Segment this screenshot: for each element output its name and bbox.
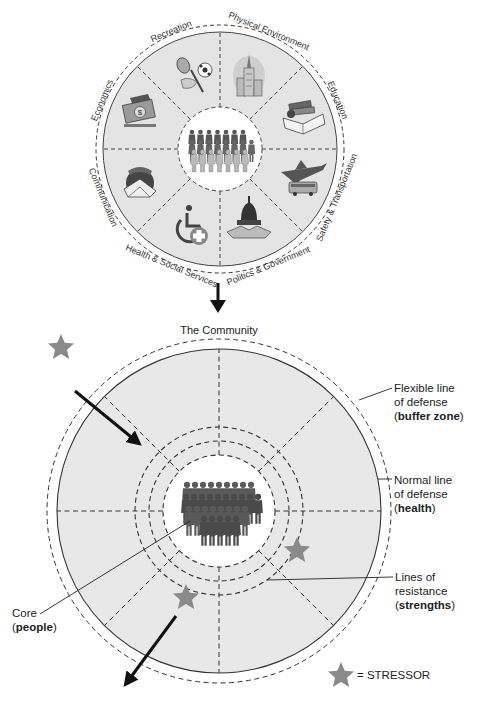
svg-text:$: $: [138, 108, 143, 117]
stressor-legend-label: = STRESSOR: [357, 668, 430, 682]
stressor-star-icon: [48, 334, 74, 359]
core-label-line1: Core: [12, 606, 57, 620]
buffer-zone-bold: buffer zone: [398, 410, 460, 422]
flexible-line-label-line2: of defense: [394, 395, 464, 409]
resistance-label-line1: Lines of: [395, 570, 455, 584]
flexible-line-label: Flexible line of defense (buffer zone): [394, 381, 464, 423]
resistance-label-line2: resistance: [395, 584, 455, 598]
community-title: The Community: [180, 324, 258, 336]
community-wheel: $ Physical EnvironmentEducationSafety & …: [87, 10, 360, 290]
phone-globe-mail-icon: [124, 167, 156, 197]
health-bold: health: [398, 502, 432, 514]
flexible-line-label-line3: (buffer zone): [394, 409, 464, 423]
strengths-bold: strengths: [399, 599, 451, 611]
stressor-legend-star-icon: [328, 662, 354, 687]
paren: ): [451, 599, 455, 611]
paren: ): [460, 410, 464, 422]
resistance-label-line3: (strengths): [395, 598, 455, 612]
paren: ): [53, 621, 57, 633]
flexible-leader-line: [359, 388, 392, 400]
community-model: [40, 334, 393, 687]
core-label-line2: (people): [12, 620, 57, 634]
normal-line-label: Normal line of defense (health): [394, 473, 452, 515]
normal-line-label-line1: Normal line: [394, 473, 452, 487]
resistance-lines-label: Lines of resistance (strengths): [395, 570, 455, 612]
people-bold: people: [16, 621, 53, 633]
flexible-line-label-line1: Flexible line: [394, 381, 464, 395]
paren: ): [432, 502, 436, 514]
core-label: Core (people): [12, 606, 57, 634]
normal-line-label-line3: (health): [394, 501, 452, 515]
normal-line-label-line2: of defense: [394, 487, 452, 501]
